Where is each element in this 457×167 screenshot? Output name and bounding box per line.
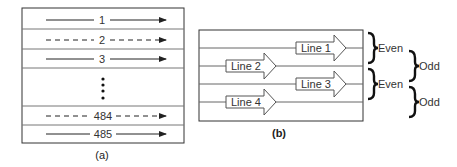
row-label: 484 (94, 110, 112, 122)
arrow-label: Line 4 (231, 96, 261, 108)
row-label: 1 (99, 14, 105, 26)
arrow-label: Line 3 (301, 78, 331, 90)
diagram-canvas: 1 2 3 484 485 (0, 0, 457, 167)
brace-label: Odd (419, 60, 440, 72)
brace-even-1: Even (368, 33, 403, 63)
brace-even-2: Even (368, 69, 403, 99)
brace-label: Odd (419, 96, 440, 108)
arrow-label: Line 2 (231, 60, 261, 72)
brace-label: Even (378, 78, 403, 90)
row-label: 3 (99, 53, 105, 65)
brace-odd-2: Odd (409, 87, 440, 117)
row-label: 2 (99, 34, 105, 46)
panel-a: 1 2 3 484 485 (22, 8, 184, 161)
brace-odd-1: Odd (409, 51, 440, 81)
panel-b-caption: (b) (272, 127, 286, 139)
brace-label: Even (378, 42, 403, 54)
row-label: 485 (94, 128, 112, 140)
panel-a-caption: (a) (95, 149, 108, 161)
panel-b: Line 1 Line 2 Line 3 Line 4 Even Odd Eve… (199, 30, 440, 139)
arrow-label: Line 1 (301, 42, 331, 54)
panel-a-frame (22, 8, 184, 143)
